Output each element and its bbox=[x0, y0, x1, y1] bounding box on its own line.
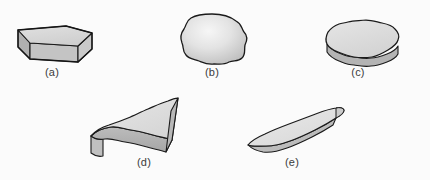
specimen-c-top-face bbox=[326, 20, 399, 58]
specimen-e-tip-bevel bbox=[336, 108, 344, 118]
figure-canvas bbox=[0, 0, 430, 180]
specimen-b-rounded-spheroidal-grain bbox=[181, 14, 247, 64]
specimen-label-e: (e) bbox=[285, 156, 299, 168]
specimen-label-b: (b) bbox=[205, 66, 219, 78]
specimen-d-elongated-wedge-slab bbox=[91, 98, 178, 156]
specimen-label-a: (a) bbox=[45, 66, 59, 78]
specimen-b-body bbox=[181, 14, 247, 64]
particle-shape-figure: (a) (b) (c) (d) (e) bbox=[0, 0, 430, 180]
specimen-c-wavy-edged-tabular-disc bbox=[326, 20, 399, 66]
specimen-e-thin-blade-platelet bbox=[248, 108, 344, 153]
specimen-label-c: (c) bbox=[351, 66, 364, 78]
specimen-a-angular-blocky-prism bbox=[18, 26, 92, 62]
specimen-label-d: (d) bbox=[137, 156, 151, 168]
